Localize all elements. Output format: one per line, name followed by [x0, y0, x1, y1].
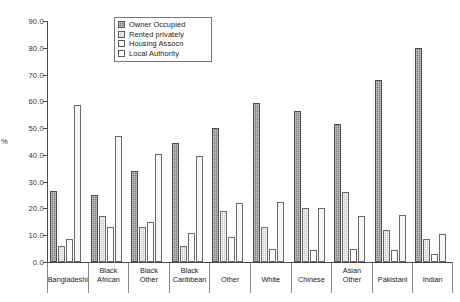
x-axis-category-asian-other: AsianOther	[331, 263, 372, 293]
legend-item[interactable]: Local Authority	[118, 49, 208, 59]
legend-swatch-housing-assocn	[118, 40, 125, 47]
y-axis-tick-label: 60.0	[0, 97, 44, 106]
y-axis-tick-label: 50.0	[0, 124, 44, 133]
y-axis-tick-label: 90.0	[0, 17, 44, 26]
bar[interactable]	[399, 215, 406, 262]
x-axis-category-other: Other	[209, 263, 250, 293]
legend-label: Local Authority	[129, 49, 179, 58]
bar[interactable]	[212, 128, 219, 262]
bar[interactable]	[302, 208, 309, 262]
bar-group	[415, 21, 452, 262]
bar[interactable]	[439, 234, 446, 262]
x-axis-category-black-african: BlackAfrican	[88, 263, 129, 293]
x-axis-category-label: Other	[343, 275, 361, 284]
bar[interactable]	[147, 222, 154, 262]
x-axis-category-black-caribbean: BlackCaribbean	[169, 263, 210, 293]
bar[interactable]	[358, 216, 365, 262]
bar[interactable]	[269, 249, 276, 262]
x-axis-category-label: Asian	[343, 266, 361, 275]
bar[interactable]	[139, 227, 146, 262]
bar[interactable]	[196, 156, 203, 262]
x-axis-category-label: Caribbean	[173, 275, 207, 284]
plot-area	[47, 21, 453, 262]
bar[interactable]	[310, 250, 317, 262]
legend-label: Housing Assocn	[129, 39, 183, 48]
x-axis-category-bangladeshi: Bangladeshi	[47, 263, 88, 293]
bar[interactable]	[253, 103, 260, 262]
x-axis-category-label: Bangladeshi	[48, 275, 88, 284]
y-axis-tick-label: 0.0	[0, 258, 44, 267]
bar[interactable]	[318, 208, 325, 262]
bar[interactable]	[431, 254, 438, 262]
bar[interactable]	[66, 239, 73, 262]
bar[interactable]	[342, 192, 349, 262]
y-axis-tick-label: 70.0	[0, 71, 44, 80]
bar[interactable]	[415, 48, 422, 262]
bar[interactable]	[383, 230, 390, 262]
y-axis-tick-label: 20.0	[0, 204, 44, 213]
bar[interactable]	[58, 246, 65, 262]
x-axis-category-chinese: Chinese	[291, 263, 332, 293]
x-axis-category-label: Other	[221, 275, 239, 284]
bar[interactable]	[180, 246, 187, 262]
bar[interactable]	[375, 80, 382, 262]
bar[interactable]	[220, 211, 227, 262]
chart-legend: Owner Occupied Rented privately Housing …	[114, 17, 212, 62]
legend-label: Owner Occupied	[129, 20, 185, 29]
bar[interactable]	[261, 227, 268, 262]
bar[interactable]	[91, 195, 98, 262]
legend-label: Rented privately	[129, 30, 184, 39]
legend-swatch-owner-occupied	[118, 21, 125, 28]
x-axis-category-label: Other	[140, 275, 158, 284]
bar[interactable]	[74, 105, 81, 262]
x-axis-category-label: Chinese	[298, 275, 325, 284]
y-axis-tick-label: 30.0	[0, 178, 44, 187]
bar-group	[212, 21, 249, 262]
bar[interactable]	[131, 171, 138, 262]
x-axis-categories: BangladeshiBlackAfricanBlackOtherBlackCa…	[47, 263, 453, 293]
bar[interactable]	[236, 203, 243, 262]
bar[interactable]	[391, 250, 398, 262]
bar-group	[375, 21, 412, 262]
x-axis-category-label: White	[261, 275, 280, 284]
x-axis-category-indian: Indian	[412, 263, 453, 293]
x-axis-category-label: Black	[99, 266, 117, 275]
bar[interactable]	[115, 136, 122, 262]
bar-group	[253, 21, 290, 262]
legend-item[interactable]: Rented privately	[118, 30, 208, 40]
x-axis-category-black-other: BlackOther	[128, 263, 169, 293]
bar[interactable]	[99, 216, 106, 262]
bar-group	[334, 21, 371, 262]
bar[interactable]	[50, 191, 57, 262]
x-axis-category-label: Black	[140, 266, 158, 275]
x-axis-category-label: Indian	[423, 275, 443, 284]
y-axis-tick-label: 10.0	[0, 231, 44, 240]
bar[interactable]	[155, 154, 162, 262]
legend-swatch-local-authority	[118, 50, 125, 57]
bar-group	[294, 21, 331, 262]
y-axis-tick-label: 80.0	[0, 44, 44, 53]
bar[interactable]	[188, 233, 195, 262]
x-axis-category-pakistani: Pakistani	[372, 263, 413, 293]
bar[interactable]	[334, 124, 341, 262]
x-axis-category-label: Black	[181, 266, 199, 275]
bar[interactable]	[350, 249, 357, 262]
legend-item[interactable]: Owner Occupied	[118, 20, 208, 30]
bar[interactable]	[172, 143, 179, 262]
x-axis-category-white: White	[250, 263, 291, 293]
y-axis-title: %	[1, 137, 8, 146]
bar[interactable]	[294, 111, 301, 262]
x-axis-category-label: Pakistani	[378, 275, 408, 284]
x-axis-category-label: African	[97, 275, 120, 284]
bar[interactable]	[277, 202, 284, 262]
bar[interactable]	[107, 227, 114, 262]
bar[interactable]	[423, 239, 430, 262]
legend-swatch-rented-privately	[118, 31, 125, 38]
bar-group	[50, 21, 87, 262]
bar[interactable]	[228, 237, 235, 262]
legend-item[interactable]: Housing Assocn	[118, 39, 208, 49]
bar-chart: % 0.010.020.030.040.050.060.070.080.090.…	[0, 0, 460, 302]
y-axis-tick-label: 40.0	[0, 151, 44, 160]
